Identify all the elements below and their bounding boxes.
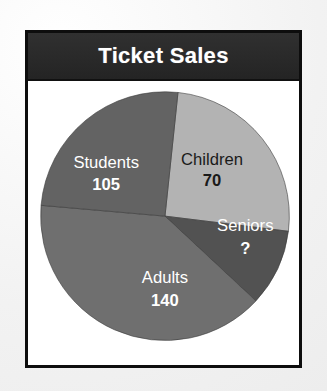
page-title: Ticket Sales [98,43,228,69]
pie-slice-label-adults: Adults [142,268,188,287]
chart-figure-frame: Ticket Sales Children70Seniors?Adults140… [25,30,302,368]
pie-slice-label-children: Children [181,150,243,169]
pie-slice-label-seniors: Seniors [217,216,273,235]
pie-chart-plot-area: Children70Seniors?Adults140Students105 [28,81,299,365]
pie-slice-value-children: 70 [203,171,222,190]
pie-slice-label-students: Students [73,153,139,172]
pie-chart: Children70Seniors?Adults140Students105 [28,81,299,365]
chart-title-bar: Ticket Sales [28,33,299,81]
pie-slice-value-seniors: ? [240,239,250,258]
pie-chart-svg: Children70Seniors?Adults140Students105 [28,81,299,365]
pie-slice-value-adults: 140 [151,291,179,310]
pie-slice-value-students: 105 [92,175,120,194]
